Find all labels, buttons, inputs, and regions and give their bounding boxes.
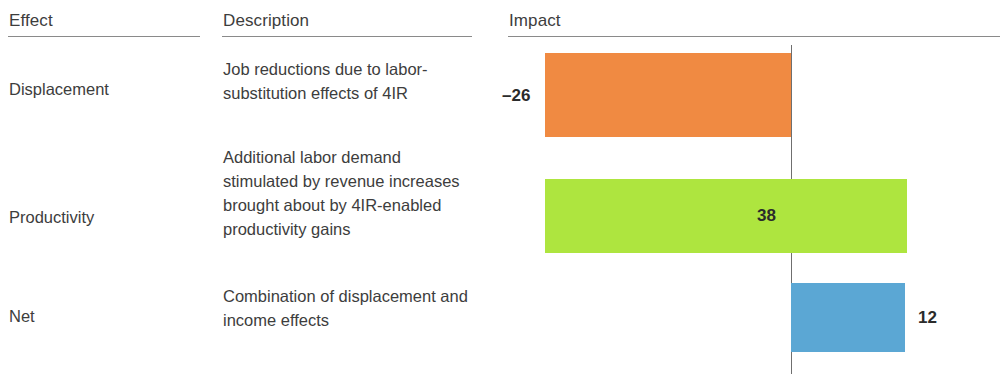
header-rule-effect [8,36,200,37]
row-label-net: Net [9,307,35,326]
row-description-displacement: Job reductions due to labor-substitution… [223,57,475,105]
impact-waterfall-figure: Effect Description Impact Displacement J… [0,0,1000,374]
column-header-description: Description [223,11,309,31]
impact-plot-area: –26 38 12 [508,37,1000,374]
row-description-productivity: Additional labor demand stimulated by re… [223,145,475,241]
bar-net [791,283,905,352]
row-label-displacement: Displacement [9,80,109,99]
bar-value-displacement: –26 [502,86,530,106]
column-header-impact: Impact [509,11,561,31]
bar-value-net: 12 [918,308,937,328]
row-label-productivity: Productivity [9,208,94,227]
header-rule-description [222,36,472,37]
row-description-net: Combination of displacement and income e… [223,284,475,332]
bar-value-productivity: 38 [757,206,776,226]
column-header-effect: Effect [9,11,53,31]
bar-productivity [545,179,907,253]
bar-displacement [545,53,791,137]
